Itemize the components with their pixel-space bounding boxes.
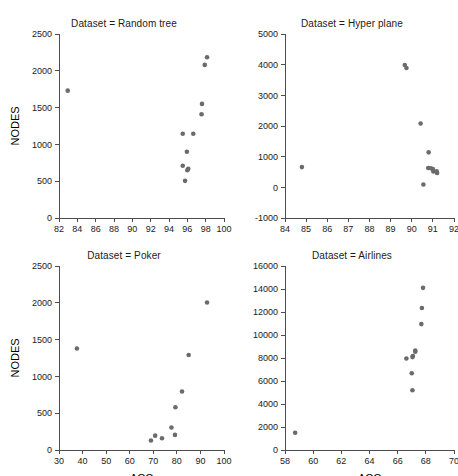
y-tick-label: 10000 [253,330,278,340]
x-tick-label: 100 [216,456,231,466]
x-axis-label: ACC [130,472,153,476]
data-point [173,405,178,410]
y-tick-label: 1500 [32,103,52,113]
data-point [200,102,205,107]
y-tick-label: 4000 [258,399,278,409]
x-tick-label: 91 [428,224,438,234]
y-tick-label: 2500 [32,29,52,39]
data-point [149,438,154,443]
panel-title-poker: Dataset = Poker [24,250,224,261]
data-point [185,149,190,154]
y-tick-label: 12000 [253,307,278,317]
panel-poker: Dataset = Poker 050010001500200025003040… [0,238,232,476]
data-point [404,356,409,361]
panel-title-random-tree: Dataset = Random tree [24,18,224,29]
data-point [404,66,409,71]
x-tick-label: 86 [91,224,101,234]
data-point [169,425,174,430]
scatter-grid-figure: Dataset = Random tree 050010001500200025… [0,0,458,476]
x-tick-label: 90 [127,224,137,234]
x-tick-label: 58 [280,456,290,466]
data-point [65,88,70,93]
data-point [420,306,425,311]
data-point [300,165,305,170]
x-tick-label: 30 [54,456,64,466]
x-tick-label: 66 [393,456,403,466]
y-tick-label: 0 [47,445,52,455]
x-tick-label: 87 [343,224,353,234]
x-tick-label: 90 [407,224,417,234]
data-point [418,121,423,126]
data-point [426,150,431,155]
y-tick-label: 1000 [32,140,52,150]
x-tick-label: 90 [195,456,205,466]
data-point [293,430,298,435]
data-point [191,131,196,136]
plot-area-hyper-plane: -100001000200030004000500084858687888990… [232,0,458,238]
y-tick-label: 6000 [258,376,278,386]
x-tick-label: 82 [54,224,64,234]
y-tick-label: 4000 [258,60,278,70]
x-tick-label: 98 [201,224,211,234]
x-axis-label: ACC [358,472,381,476]
y-tick-label: 2000 [32,298,52,308]
data-point [186,353,191,358]
x-tick-label: 89 [386,224,396,234]
data-point [180,389,185,394]
data-point [409,371,414,376]
y-axis-label: NODES [9,338,21,377]
x-tick-label: 80 [172,456,182,466]
data-point [421,286,426,291]
data-point [153,433,158,438]
y-tick-label: 0 [273,183,278,193]
y-tick-label: 2500 [32,261,52,271]
plot-area-airlines: 0200040006000800010000120001400016000586… [232,238,458,476]
data-point [160,436,165,441]
panel-hyper-plane: Dataset = Hyper plane -10000100020003000… [232,0,458,238]
data-point [180,131,185,136]
panel-airlines: Dataset = Airlines 020004000600080001000… [232,238,458,476]
x-tick-label: 84 [280,224,290,234]
plot-area-poker: 0500100015002000250030405060708090100NOD… [0,238,232,476]
data-point [435,171,440,176]
x-tick-label: 86 [322,224,332,234]
axis-spine [285,266,454,450]
plot-area-random-tree: 0500100015002000250082848688909294969810… [0,0,232,238]
x-tick-label: 64 [364,456,374,466]
x-tick-label: 84 [72,224,82,234]
y-tick-label: 500 [37,408,52,418]
y-tick-label: 1000 [258,152,278,162]
y-tick-label: 5000 [258,29,278,39]
y-tick-label: -1000 [255,213,278,223]
x-tick-label: 40 [78,456,88,466]
y-tick-label: 0 [273,445,278,455]
panel-random-tree: Dataset = Random tree 050010001500200025… [0,0,232,238]
data-point [199,112,204,117]
x-tick-label: 88 [364,224,374,234]
x-tick-label: 92 [449,224,458,234]
y-tick-label: 2000 [258,121,278,131]
y-tick-label: 0 [47,213,52,223]
x-tick-label: 62 [336,456,346,466]
data-point [180,163,185,168]
axis-spine [59,266,224,450]
y-tick-label: 8000 [258,353,278,363]
panel-title-airlines: Dataset = Airlines [252,250,452,261]
y-tick-label: 16000 [253,261,278,271]
y-tick-label: 1500 [32,335,52,345]
x-tick-label: 88 [109,224,119,234]
y-tick-label: 2000 [258,422,278,432]
y-tick-label: 2000 [32,66,52,76]
data-point [411,354,416,359]
y-tick-label: 3000 [258,91,278,101]
x-tick-label: 94 [164,224,174,234]
x-tick-label: 96 [182,224,192,234]
x-tick-label: 50 [101,456,111,466]
y-tick-label: 500 [37,176,52,186]
x-tick-label: 100 [216,224,231,234]
x-tick-label: 70 [148,456,158,466]
x-tick-label: 60 [308,456,318,466]
y-tick-label: 14000 [253,284,278,294]
data-point [410,388,415,393]
axis-spine [59,34,224,218]
